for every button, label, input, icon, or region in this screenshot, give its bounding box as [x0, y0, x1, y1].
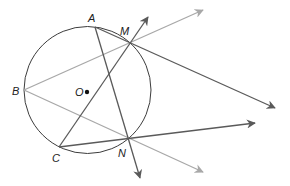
- ray-AM: [95, 27, 275, 108]
- ray-BN: [24, 90, 203, 172]
- label-M: M: [120, 25, 130, 37]
- center-dot: [85, 90, 89, 94]
- label-N: N: [118, 147, 126, 159]
- ray-CN: [59, 123, 255, 147]
- ray-CM: [59, 17, 148, 147]
- label-C: C: [52, 152, 60, 164]
- label-A: A: [87, 12, 95, 24]
- ray-BM: [24, 10, 203, 90]
- circle-secant-diagram: A M B C N O: [0, 0, 290, 186]
- label-B: B: [12, 85, 19, 97]
- label-O: O: [75, 86, 84, 98]
